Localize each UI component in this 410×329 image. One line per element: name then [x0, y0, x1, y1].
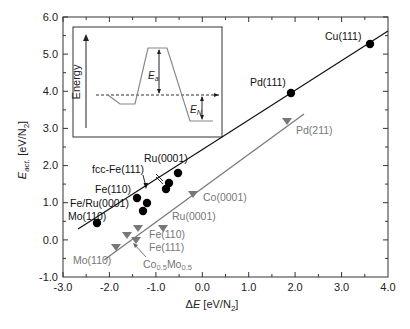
point-fe-b[interactable] [143, 199, 151, 207]
point-fccfe111-b[interactable] [165, 179, 173, 187]
x-tick-neg1: -1.0 [146, 281, 165, 293]
y-tick-1: 1.0 [43, 196, 58, 208]
point-fe110[interactable] [133, 194, 141, 202]
label-ru0001: Ru(0001) [144, 152, 188, 164]
label-fccfe111: fcc-Fe(111) [92, 163, 144, 175]
x-tick-labels: -3.0 -2.0 -1.0 0.0 1.0 2.0 3.0 4.0 [54, 281, 396, 293]
y-tick-labels: 6.0 5.0 4.0 3.0 2.0 1.0 0.0 -1.0 [39, 11, 58, 283]
fccfe-arrowhead-1-icon [144, 183, 149, 189]
label-co0001: Co(0001) [203, 191, 247, 203]
point-fe111-step[interactable] [131, 237, 141, 244]
label-ru0001-step: Ru(0001) [172, 210, 216, 222]
y-axis-title: Eact. [eV/N2] [16, 121, 31, 179]
x-axis-title: ΔE [eV/N2] [186, 298, 239, 313]
y-tick-5: 5.0 [43, 48, 58, 60]
x-tick-4: 4.0 [380, 281, 395, 293]
y-tick-4: 4.0 [43, 85, 58, 97]
x-tick-0: 0.0 [195, 281, 210, 293]
label-pd111: Pd(111) [250, 76, 286, 88]
label-mo110: Mo(110) [68, 210, 106, 222]
step-points [111, 118, 292, 251]
label-feru0001: Fe/Ru(0001) [70, 197, 129, 209]
label-pd211: Pd(211) [296, 124, 333, 136]
x-tick-2: 2.0 [287, 281, 302, 293]
x-tick-neg3: -3.0 [54, 281, 73, 293]
label-fe110: Fe(110) [95, 183, 131, 195]
label-mo110-step: Mo(110) [73, 254, 111, 266]
label-cu111: Cu(111) [325, 30, 361, 42]
label-fe111-step: Fe(111) [149, 241, 184, 253]
x-tick-3: 3.0 [334, 281, 349, 293]
label-como: Co0.5Mo0.5 [143, 258, 192, 272]
y-tick-2: 2.0 [43, 159, 58, 171]
point-mo110-step[interactable] [111, 244, 121, 251]
inset-energy-diagram: Energy Ea EN [70, 27, 222, 137]
y-tick-3: 3.0 [43, 122, 58, 134]
y-tick-6: 6.0 [43, 11, 58, 23]
point-pd111[interactable] [287, 89, 295, 97]
x-tick-neg2: -2.0 [100, 281, 119, 293]
x-tick-1: 1.0 [241, 281, 256, 293]
label-fe110-step: Fe(110) [149, 228, 185, 240]
chart-root: 6.0 5.0 4.0 3.0 2.0 1.0 0.0 -1.0 -3.0 -2… [0, 0, 410, 329]
y-tick-0: 0.0 [43, 234, 58, 246]
inset-energy-label: Energy [70, 64, 82, 99]
point-como[interactable] [122, 232, 132, 239]
point-cu111[interactable] [366, 40, 374, 48]
point-step-c[interactable] [133, 225, 143, 232]
point-feru0001[interactable] [139, 207, 147, 215]
point-ru0001[interactable] [174, 169, 182, 177]
